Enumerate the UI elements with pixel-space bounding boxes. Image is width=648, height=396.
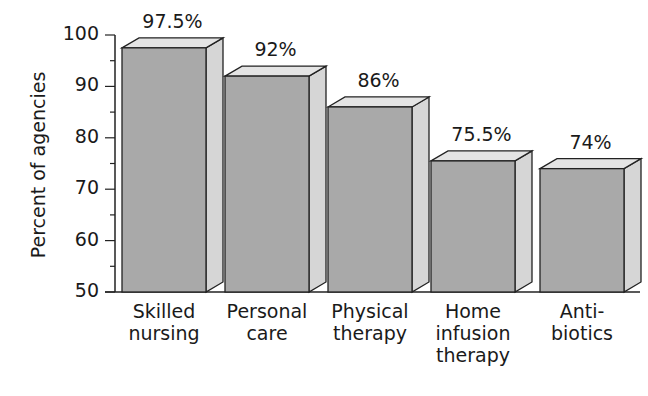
bar-top-face [431, 151, 532, 161]
bar-side-face [515, 151, 532, 292]
bar-side-face [206, 38, 223, 292]
x-category-label: Anti- biotics [527, 300, 637, 344]
bar-value-label: 92% [226, 38, 326, 60]
bar-value-label: 75.5% [432, 123, 532, 145]
x-category-label: Personal care [212, 300, 322, 344]
bar-top-face [540, 159, 641, 169]
bar-top-face [328, 97, 429, 107]
y-tick-label: 50 [49, 279, 99, 301]
bar-front-face [122, 48, 206, 292]
y-tick-label: 100 [49, 22, 99, 44]
bar-value-label: 74% [541, 131, 641, 153]
bar-value-label: 97.5% [123, 10, 223, 32]
bar-side-face [624, 159, 641, 292]
y-tick-label: 60 [49, 228, 99, 250]
x-category-label: Home infusion therapy [418, 300, 528, 366]
bar-top-face [122, 38, 223, 48]
y-tick-label: 80 [49, 125, 99, 147]
bar-front-face [328, 107, 412, 292]
y-axis-label: Percent of agencies [27, 72, 49, 259]
bar-front-face [540, 169, 624, 292]
y-tick-label: 90 [49, 73, 99, 95]
bar-value-label: 86% [329, 69, 429, 91]
x-category-label: Physical therapy [315, 300, 425, 344]
bar-front-face [431, 161, 515, 292]
y-tick-label: 70 [49, 176, 99, 198]
bar-side-face [412, 97, 429, 292]
bar-top-face [225, 66, 326, 76]
bar-side-face [309, 66, 326, 292]
x-category-label: Skilled nursing [109, 300, 219, 344]
bar-front-face [225, 76, 309, 292]
